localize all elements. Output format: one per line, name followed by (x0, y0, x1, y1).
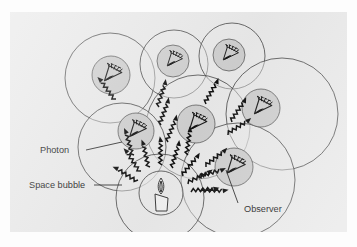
figure-canvas: Photon Space bubble Observer (0, 0, 357, 247)
label-space-bubble: Space bubble (29, 180, 85, 190)
label-observer: Observer (244, 204, 282, 214)
space-bubble-diagram: Photon Space bubble Observer (10, 12, 347, 232)
observer-core-2 (157, 45, 189, 77)
observer-core-1 (92, 56, 130, 94)
observer-core-6 (118, 113, 154, 149)
label-photon: Photon (40, 145, 69, 155)
light-source-candle (139, 171, 183, 215)
observer-core-4 (177, 105, 215, 143)
observer-core-3 (213, 39, 245, 71)
figure-panel: Photon Space bubble Observer (10, 12, 347, 232)
